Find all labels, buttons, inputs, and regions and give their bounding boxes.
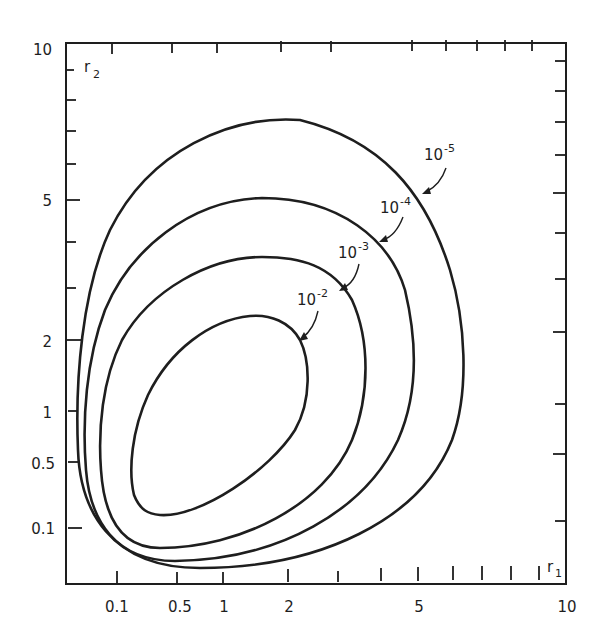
- svg-text:r: r: [84, 58, 91, 76]
- x-axis-label: r 1: [547, 558, 562, 580]
- x-tick-labels: 0.1 0.5 1 2 5 10: [105, 598, 576, 616]
- label-1e-4: 10 -4: [379, 195, 411, 242]
- svg-text:10: 10: [338, 244, 357, 262]
- y-tick-1: 1: [42, 404, 52, 422]
- x-tick-5: 5: [414, 598, 424, 616]
- label-1e-2: 10 -2: [297, 287, 328, 341]
- y-tick-5: 5: [42, 192, 52, 210]
- x-tick-0-5: 0.5: [168, 598, 192, 616]
- y-axis-label: r 2: [84, 58, 100, 81]
- right-ticks: [553, 61, 566, 521]
- svg-text:-2: -2: [317, 287, 328, 300]
- y-tick-0-5: 0.5: [31, 455, 55, 473]
- svg-text:1: 1: [555, 567, 562, 580]
- contour-1e-2: [131, 316, 307, 515]
- svg-text:10: 10: [424, 146, 443, 164]
- svg-text:2: 2: [93, 68, 100, 81]
- x-tick-0-1: 0.1: [105, 598, 129, 616]
- label-1e-5: 10 -5: [422, 142, 455, 194]
- contour-chart: 10 5 2 1 0.5 0.1 0.1 0.5 1 2 5 10 r 2 r …: [0, 0, 595, 636]
- svg-text:r: r: [547, 558, 554, 576]
- svg-text:-3: -3: [358, 240, 369, 253]
- x-tick-1: 1: [219, 598, 229, 616]
- x-tick-10: 10: [557, 598, 576, 616]
- svg-text:-4: -4: [400, 195, 411, 208]
- svg-text:10: 10: [380, 199, 399, 217]
- svg-text:10: 10: [297, 291, 316, 309]
- svg-text:-5: -5: [444, 142, 455, 155]
- y-tick-0-1: 0.1: [31, 520, 55, 538]
- label-1e-3: 10 -3: [338, 240, 369, 291]
- bottom-ticks: [117, 566, 539, 584]
- x-tick-2: 2: [284, 598, 294, 616]
- y-tick-10: 10: [33, 41, 52, 59]
- y-tick-2: 2: [42, 333, 52, 351]
- y-tick-labels: 10 5 2 1 0.5 0.1: [31, 41, 55, 538]
